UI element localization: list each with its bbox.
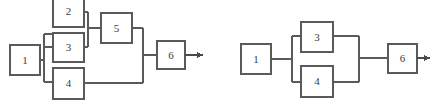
diagram-canvas: 1 2 3 4 5 6 [0,0,432,111]
block-6[interactable]: 6 [388,44,417,73]
block-1[interactable]: 1 [241,44,271,74]
block-4[interactable]: 4 [301,66,333,97]
block-6[interactable]: 6 [157,41,185,69]
block-3-label: 3 [314,31,320,43]
block-1-label: 1 [253,53,259,65]
block-2-label: 2 [66,5,72,17]
block-5-label: 5 [114,22,120,34]
block-3[interactable]: 3 [53,33,84,62]
block-1[interactable]: 1 [10,45,40,75]
block-6-label: 6 [168,49,174,61]
block-1-label: 1 [22,54,28,66]
block-2[interactable]: 2 [53,0,84,27]
block-5[interactable]: 5 [101,13,132,43]
block-4-label: 4 [66,77,72,89]
block-3[interactable]: 3 [301,22,333,52]
block-4[interactable]: 4 [53,68,84,99]
block-3-label: 3 [66,41,72,53]
block-6-label: 6 [400,52,406,64]
block-4-label: 4 [314,75,320,87]
